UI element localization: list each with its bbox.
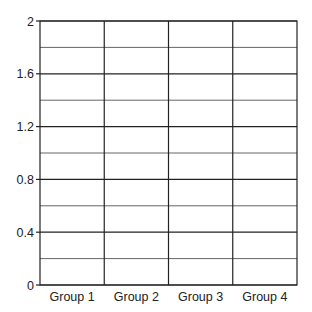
y-tick-label: 0.4 — [17, 226, 34, 240]
x-category-label: Group 1 — [50, 290, 95, 304]
y-tick-label: 1.6 — [17, 67, 34, 81]
x-category-label: Group 2 — [114, 290, 159, 304]
x-category-label: Group 4 — [242, 290, 287, 304]
y-tick-label: 0 — [27, 279, 34, 293]
y-tick-label: 0.8 — [17, 173, 34, 187]
x-category-label: Group 3 — [178, 290, 223, 304]
y-tick-label: 1.2 — [17, 120, 34, 134]
x-axis: Group 1Group 2Group 3Group 4 — [50, 290, 288, 304]
y-tick-label: 2 — [27, 15, 34, 29]
chart: 00.40.81.21.62 Group 1Group 2Group 3Grou… — [0, 0, 312, 312]
y-axis: 00.40.81.21.62 — [17, 15, 40, 293]
